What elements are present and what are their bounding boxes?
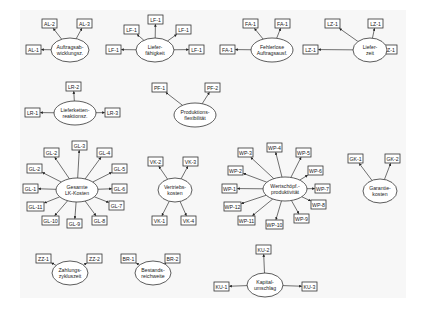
- indicator-label: WP-3: [239, 150, 252, 156]
- indicator-box: KU-2: [256, 245, 271, 254]
- indicator-label: WP-4: [268, 145, 281, 151]
- indicator-label: LF-1: [126, 27, 137, 33]
- indicator-label: VK-1: [154, 218, 166, 224]
- construct-label: produktivität: [271, 189, 300, 195]
- loading-arrow: [180, 201, 186, 215]
- indicator-label: LZ-1: [327, 21, 338, 27]
- loading-arrow: [168, 35, 177, 41]
- indicator-label: ZZ-1: [38, 256, 49, 262]
- loading-arrow: [276, 201, 282, 220]
- indicator-box: AL-1: [26, 45, 41, 54]
- indicator-label: WP-7: [316, 186, 329, 192]
- construct-label: umschlag: [254, 285, 276, 291]
- indicator-box: LR-3: [105, 108, 120, 117]
- loading-arrow: [202, 93, 209, 104]
- indicator-box: WP-10: [266, 220, 283, 229]
- loading-arrow: [78, 151, 80, 179]
- indicator-label: WP-8: [312, 202, 325, 208]
- nodes-layer: AL-2AL-3AL-1Auftragsab-wicklungsz.LF-1LF…: [23, 15, 400, 297]
- edges-layer: [39, 25, 391, 287]
- indicator-label: LF-1: [108, 47, 119, 53]
- indicator-label: GL-7: [111, 203, 123, 209]
- indicator-box: LR-2: [66, 82, 81, 91]
- indicator-label: KU-1: [216, 284, 228, 290]
- loading-arrow: [264, 255, 265, 274]
- measurement-model-diagram: AL-2AL-3AL-1Auftragsab-wicklungsz.LF-1LF…: [0, 0, 426, 318]
- indicator-box: WP-4: [267, 143, 282, 152]
- loading-arrow: [85, 158, 101, 179]
- construct-ellipse-gk: Garantie-kosten: [363, 179, 397, 203]
- indicator-label: GL-1: [25, 186, 37, 192]
- loading-arrow: [45, 197, 60, 203]
- indicator-label: KU-2: [258, 247, 270, 253]
- construct-ellipse-al: Auftragsab-wicklungsz.: [51, 38, 89, 62]
- indicator-label: GL-3: [74, 143, 86, 149]
- loading-arrow: [251, 158, 274, 179]
- indicator-box: BR-2: [165, 254, 180, 263]
- indicator-label: LF-1: [191, 47, 202, 53]
- indicator-box: WP-6: [308, 166, 323, 175]
- indicator-label: WP-9: [295, 216, 308, 222]
- loading-arrow: [242, 195, 267, 203]
- indicator-box: LZ-1: [303, 45, 318, 54]
- indicator-label: GL-8: [94, 218, 106, 224]
- loading-arrow: [302, 197, 311, 201]
- indicator-box: LF-1: [106, 45, 121, 54]
- loading-arrow: [277, 29, 281, 39]
- indicator-box: PF-1: [152, 83, 167, 92]
- indicator-box: WP-3: [238, 148, 253, 157]
- indicator-box: WP-9: [294, 214, 309, 223]
- indicator-label: GK-1: [349, 156, 361, 162]
- indicator-box: LF-1: [148, 15, 163, 24]
- loading-arrow: [230, 286, 248, 287]
- indicator-label: GL-2: [29, 166, 41, 172]
- construct-ellipse-lr: Lieferketten-reaktionsz.: [54, 101, 96, 125]
- construct-ellipse-lz: Liefer-zeit: [353, 38, 387, 62]
- indicator-box: LZ-1: [368, 19, 383, 28]
- indicator-box: GL-8: [92, 216, 107, 225]
- indicator-box: FA-1: [220, 45, 235, 54]
- indicator-box: PF-2: [205, 83, 220, 92]
- indicator-box: VK-4: [181, 216, 196, 225]
- loading-arrow: [300, 175, 308, 180]
- indicator-box: LF-1: [176, 25, 191, 34]
- construct-label: kosten: [372, 191, 387, 197]
- indicator-box: WP-7: [315, 184, 330, 193]
- construct-label: zykluszeit: [59, 273, 82, 279]
- loading-arrow: [39, 189, 57, 190]
- loading-arrow: [283, 286, 302, 287]
- indicator-label: ZZ-2: [89, 256, 100, 262]
- loading-arrow: [181, 167, 188, 179]
- loading-arrow: [244, 173, 267, 182]
- loading-arrow: [52, 263, 57, 266]
- construct-label: kosten: [167, 190, 182, 196]
- construct-label: Auftragsausf.: [257, 50, 288, 56]
- indicator-box: GL-5: [112, 164, 127, 173]
- loading-arrow: [83, 263, 86, 265]
- indicator-label: AL-1: [28, 47, 39, 53]
- indicator-label: WP-12: [225, 204, 241, 210]
- loading-arrow: [384, 164, 390, 180]
- indicator-box: GK-2: [385, 154, 400, 163]
- indicator-box: LZ-1: [325, 19, 340, 28]
- indicator-label: PF-1: [154, 85, 165, 91]
- indicator-box: LF-1: [189, 45, 204, 54]
- loading-arrow: [85, 201, 96, 215]
- loading-arrow: [53, 29, 61, 40]
- indicator-box: BR-1: [121, 254, 136, 263]
- indicator-box: WP-2: [228, 166, 243, 175]
- indicator-box: GL-10: [42, 216, 59, 225]
- indicator-label: FA-1: [245, 21, 256, 27]
- loading-arrow: [74, 92, 75, 102]
- indicator-label: WP-1: [223, 186, 236, 192]
- loading-arrow: [55, 201, 68, 216]
- indicator-label: WP-5: [297, 150, 310, 156]
- indicator-label: GL-9: [69, 221, 81, 227]
- indicator-box: WP-1: [222, 184, 237, 193]
- indicator-label: BR-2: [167, 256, 179, 262]
- indicator-label: WP-10: [267, 222, 283, 228]
- indicator-label: KU-3: [304, 284, 316, 290]
- construct-ellipse-zz: Zahlungs-zykluszeit: [52, 261, 88, 285]
- construct-label: LK-Kosten: [65, 190, 89, 196]
- indicator-box: GL-4: [97, 148, 112, 157]
